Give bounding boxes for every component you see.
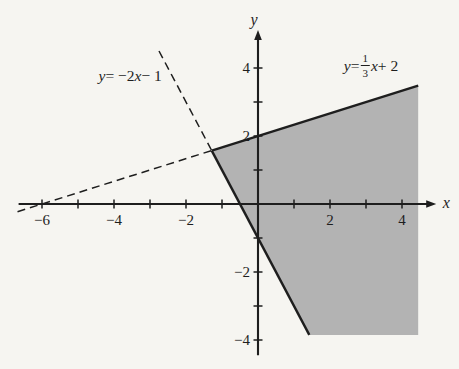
equation-text: = — [351, 57, 360, 74]
x-tick-label: 4 — [398, 212, 406, 228]
line1-dashed-segment — [159, 51, 212, 151]
x-tick-label: −2 — [178, 212, 194, 228]
x-tick-label: 2 — [326, 212, 334, 228]
y-axis-arrow-icon — [254, 30, 262, 40]
x-axis-label: x — [443, 194, 450, 212]
equation-text: y — [344, 57, 351, 74]
line2-equation-label: y = 13x + 2 — [344, 53, 398, 79]
y-tick-label: −2 — [234, 264, 250, 280]
equation-text: x — [135, 68, 142, 85]
fraction: 13 — [360, 53, 370, 79]
figure-inequality-graph: −6−4−22442−2−4 y = −2x − 1 y = 13x + 2 x… — [0, 0, 459, 369]
equation-text: − 1 — [141, 68, 161, 85]
fraction-numerator: 1 — [360, 53, 370, 66]
y-tick-label: 4 — [243, 60, 251, 76]
equation-text: x — [371, 57, 378, 74]
line1-equation-label: y = −2x − 1 — [99, 68, 162, 85]
equation-text: + 2 — [378, 57, 398, 74]
x-tick-label: −4 — [106, 212, 122, 228]
x-tick-label: −6 — [34, 212, 50, 228]
equation-text: y — [99, 68, 106, 85]
y-tick-label: −4 — [234, 332, 250, 348]
equation-text: = −2 — [105, 68, 134, 85]
fraction-denominator: 3 — [360, 65, 370, 79]
x-axis-arrow-icon — [426, 200, 436, 208]
y-axis-label: y — [250, 11, 257, 29]
